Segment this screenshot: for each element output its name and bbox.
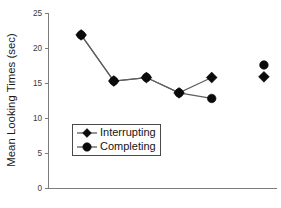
- y-tick-label-25: 25: [33, 9, 43, 18]
- data-point-diamond: [206, 72, 217, 83]
- series-line-completing: [81, 35, 212, 99]
- data-point-circle: [207, 94, 216, 103]
- y-axis-ticks: 0 5 10 15 20 25: [33, 9, 49, 193]
- data-point-circle: [175, 89, 184, 98]
- y-axis-title: Mean Looking Times (sec): [5, 33, 17, 167]
- series-markers-group: [76, 30, 270, 103]
- y-tick-label-15: 15: [33, 79, 43, 88]
- y-tick-label-0: 0: [37, 184, 42, 193]
- circle-icon: [83, 143, 91, 151]
- legend-label-completing: Completing: [100, 140, 156, 152]
- data-point-circle: [109, 77, 118, 86]
- data-point-diamond: [259, 71, 270, 82]
- y-tick-label-5: 5: [37, 149, 42, 158]
- legend-label-interrupting: Interrupting: [100, 126, 156, 138]
- series-lines-group: [81, 35, 212, 99]
- y-tick-label-20: 20: [33, 44, 43, 53]
- data-point-circle: [260, 61, 269, 70]
- line-chart: Mean Looking Times (sec) 0 5 10 15 20 25: [0, 0, 281, 208]
- series-line-interrupting: [81, 35, 212, 93]
- y-tick-label-10: 10: [33, 114, 43, 123]
- data-point-circle: [77, 31, 86, 40]
- data-point-circle: [142, 73, 151, 82]
- chart-legend[interactable]: Interrupting Completing: [73, 125, 161, 156]
- chart-container: Mean Looking Times (sec) 0 5 10 15 20 25: [0, 0, 281, 208]
